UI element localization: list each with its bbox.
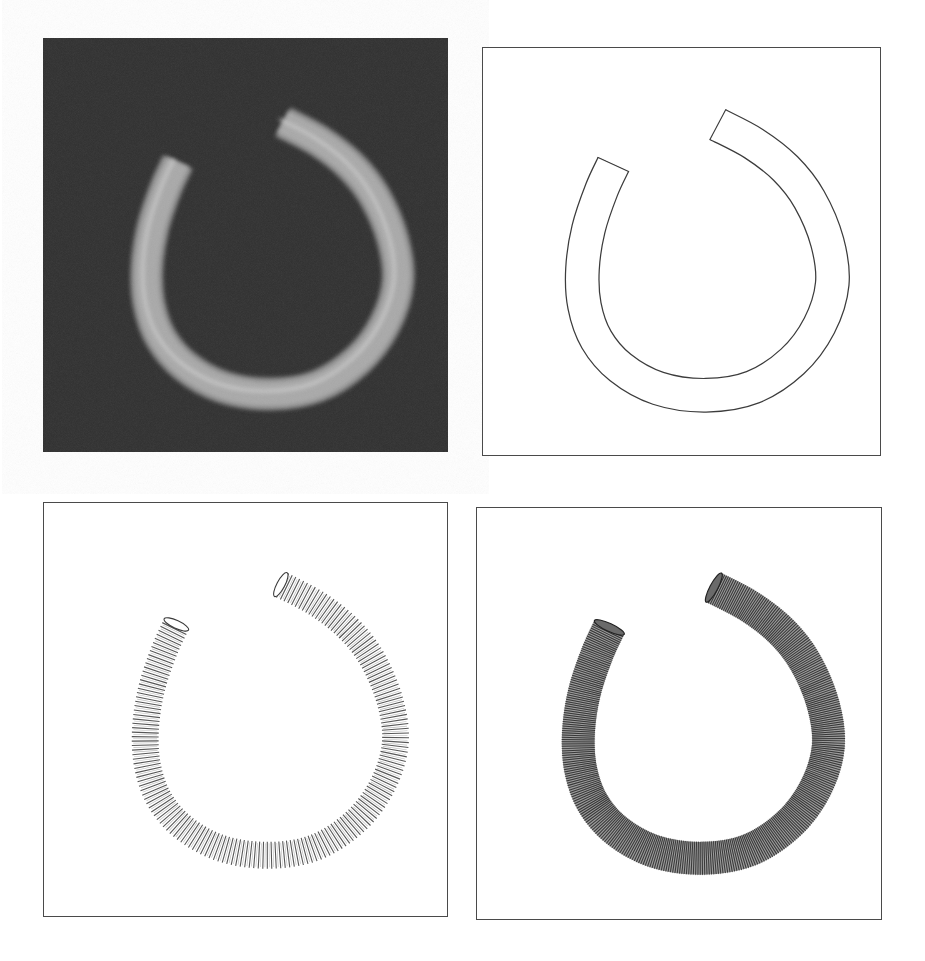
tube-shaded-graphic	[43, 38, 448, 452]
panel-dense-rendering: Dense cross-section line rendering	[476, 507, 882, 920]
panel-outline-rendering: Silhouette outline rendering	[482, 47, 881, 456]
panel-rings-rendering: Sparse cross-section ring rendering	[43, 502, 448, 917]
tube-dense-graphic	[477, 508, 881, 919]
tube-rings-graphic	[44, 503, 447, 916]
panel-shaded-rendering: Shaded volume rendering on dark backgrou…	[43, 38, 448, 452]
noise-overlay	[43, 38, 448, 452]
tube-outline-graphic	[483, 48, 880, 455]
